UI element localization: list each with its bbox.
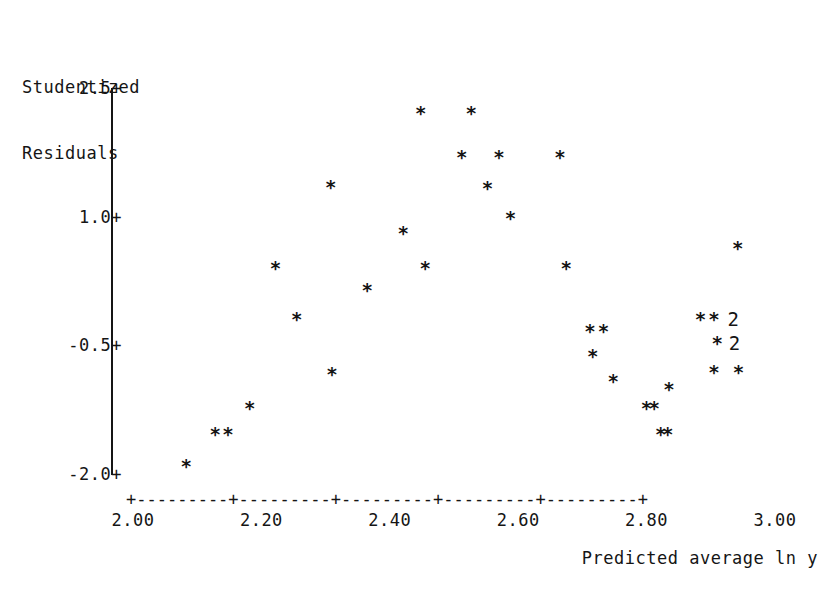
data-point-marker: * xyxy=(220,425,236,444)
data-point-marker: * xyxy=(395,224,411,243)
data-point-marker: * xyxy=(289,310,305,329)
data-point-marker: * xyxy=(646,399,662,418)
data-point-marker: * xyxy=(359,281,375,300)
data-point-marker: * xyxy=(558,259,574,278)
data-point-marker: * xyxy=(660,425,676,444)
data-point-marker: * xyxy=(552,148,568,167)
data-point-marker: * xyxy=(585,347,601,366)
data-point-marker: * xyxy=(709,334,725,353)
data-point-marker: * xyxy=(596,322,612,341)
data-point-marker: * xyxy=(417,259,433,278)
data-point-marker: * xyxy=(706,310,722,329)
data-point-marker: * xyxy=(268,259,284,278)
data-point-marker: * xyxy=(479,179,495,198)
data-point-marker: * xyxy=(413,104,429,123)
data-point-marker: * xyxy=(706,363,722,382)
data-point-marker: * xyxy=(605,372,621,391)
data-point-marker: * xyxy=(454,148,470,167)
data-point-overplot-count: 2 xyxy=(725,310,741,329)
data-point-marker: * xyxy=(324,365,340,384)
data-point-marker: * xyxy=(178,457,194,476)
data-point-marker: * xyxy=(463,104,479,123)
data-point-marker: * xyxy=(661,380,677,399)
data-point-marker: * xyxy=(242,399,258,418)
data-point-marker: * xyxy=(491,148,507,167)
data-point-marker: * xyxy=(502,209,518,228)
data-point-marker: * xyxy=(730,363,746,382)
data-point-marker: * xyxy=(730,239,746,258)
data-points-layer: ******************************2*2*** xyxy=(0,0,833,599)
scatter-plot: Studentized Residuals 2.5+1.0+-0.5+-2.0+… xyxy=(0,0,833,599)
data-point-marker: * xyxy=(323,178,339,197)
data-point-overplot-count: 2 xyxy=(727,334,743,353)
